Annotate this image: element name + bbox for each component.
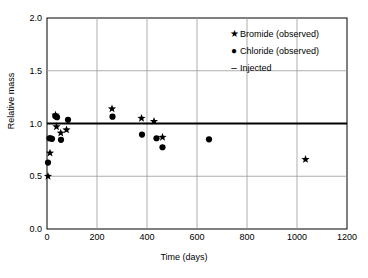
x-axis-title: Time (days) [0, 252, 368, 262]
star-icon: ★ [228, 27, 240, 40]
chart-figure: 0.0 0.5 1.0 1.5 2.0 0 200 400 600 800 10… [0, 0, 368, 278]
legend-label: Chloride (observed) [240, 46, 319, 56]
data-point-chloride [139, 131, 145, 137]
y-axis-title: Relative mass [6, 54, 16, 148]
circle-icon: ● [228, 44, 240, 57]
data-point-chloride [109, 114, 115, 120]
legend-item-chloride: ●Chloride (observed) [228, 44, 319, 57]
x-tick-label: 800 [227, 232, 267, 242]
data-point-chloride [206, 136, 212, 142]
y-tick-label: 0.5 [14, 171, 42, 181]
x-tick-label: 0 [27, 232, 67, 242]
x-tick-label: 400 [127, 232, 167, 242]
legend-label: Bromide (observed) [240, 29, 319, 39]
data-point-chloride [54, 114, 60, 120]
x-tick-label: 1200 [327, 232, 367, 242]
dash-icon: – [228, 61, 240, 74]
data-point-chloride [159, 144, 165, 150]
legend-item-bromide: ★Bromide (observed) [228, 27, 319, 40]
x-tick-label: 200 [77, 232, 117, 242]
y-tick-label: 1.0 [14, 119, 42, 129]
y-tick-label: 1.5 [14, 66, 42, 76]
legend-item-injected: –Injected [228, 61, 272, 74]
y-tick-label: 2.0 [14, 13, 42, 23]
data-point-chloride [65, 117, 71, 123]
legend-label: Injected [240, 63, 272, 73]
x-tick-label: 600 [177, 232, 217, 242]
x-tick-label: 1000 [277, 232, 317, 242]
data-point-chloride [58, 137, 64, 143]
data-point-chloride [49, 136, 55, 142]
data-point-chloride [45, 159, 51, 165]
data-point-chloride [153, 135, 159, 141]
